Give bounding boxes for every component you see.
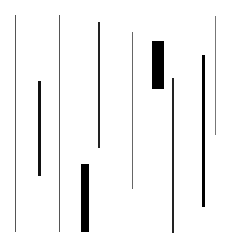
vertical-bar: [98, 22, 100, 148]
vertical-bar: [81, 164, 89, 232]
vertical-bar: [172, 78, 174, 233]
vertical-bar: [152, 41, 164, 89]
vertical-bar: [132, 32, 133, 189]
vertical-bar: [59, 15, 60, 232]
vertical-bar: [215, 16, 216, 135]
abstract-bar-composition: [0, 0, 232, 243]
vertical-bar: [202, 55, 205, 207]
vertical-bar: [15, 15, 16, 232]
vertical-bar: [38, 81, 41, 176]
